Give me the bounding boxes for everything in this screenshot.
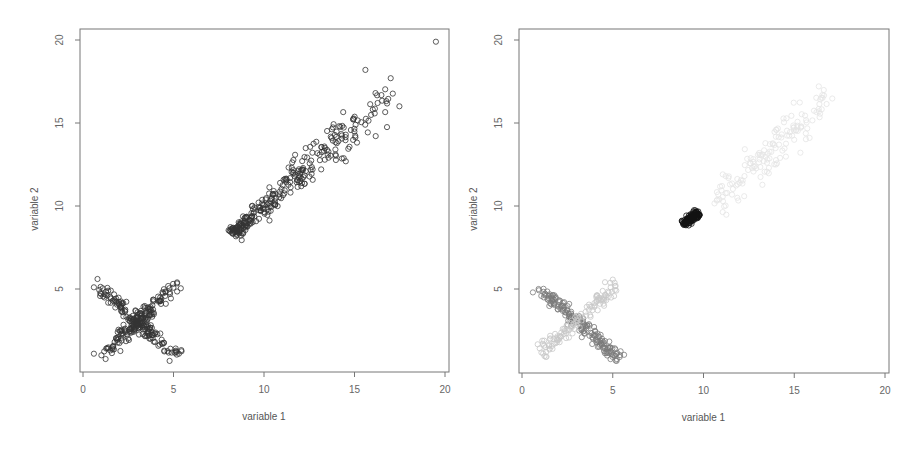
data-point xyxy=(267,185,272,190)
data-point xyxy=(797,100,802,105)
data-point xyxy=(282,188,287,193)
data-point xyxy=(288,190,293,195)
right-scatter-plot: 05101520variable 15101520variable 2 xyxy=(440,0,923,451)
plot-area: 05101520variable 15101520variable 2 xyxy=(29,29,451,422)
data-point xyxy=(354,140,359,145)
y-axis: 5101520variable 2 xyxy=(468,34,519,292)
data-point xyxy=(792,137,797,142)
data-point xyxy=(729,192,734,197)
y-tick-label: 10 xyxy=(493,200,504,212)
data-points xyxy=(91,39,438,363)
data-point xyxy=(817,115,822,120)
data-point xyxy=(810,118,815,123)
data-point xyxy=(798,150,803,155)
data-point xyxy=(91,351,96,356)
data-point xyxy=(319,167,324,172)
y-tick-label: 20 xyxy=(54,34,65,46)
x-tick-label: 10 xyxy=(698,385,710,396)
x-tick-label: 15 xyxy=(789,385,801,396)
data-point xyxy=(595,308,600,313)
data-point xyxy=(99,353,104,358)
x-axis-title: variable 1 xyxy=(242,411,286,422)
series-2 xyxy=(226,87,402,243)
data-point xyxy=(600,288,605,293)
data-point xyxy=(742,194,747,199)
y-tick-label: 5 xyxy=(493,286,504,292)
data-point xyxy=(803,131,808,136)
data-point xyxy=(317,158,322,163)
data-point xyxy=(784,128,789,133)
data-point xyxy=(742,147,747,152)
x-tick-label: 5 xyxy=(610,385,616,396)
y-axis: 5101520variable 2 xyxy=(29,34,80,292)
data-point xyxy=(758,174,763,179)
x-tick-label: 10 xyxy=(258,384,270,395)
x-axis: 05101520variable 1 xyxy=(80,372,451,422)
data-point xyxy=(375,100,380,105)
data-point xyxy=(742,163,747,168)
data-point xyxy=(541,286,546,291)
data-point xyxy=(816,84,821,89)
data-point xyxy=(300,159,305,164)
data-point xyxy=(341,110,346,115)
right-scatter-panel: 05101520variable 15101520variable 2 xyxy=(440,0,901,451)
y-tick-label: 20 xyxy=(493,34,504,46)
x-tick-label: 0 xyxy=(519,385,525,396)
data-point xyxy=(333,147,338,152)
left-scatter-panel: 05101520variable 15101520variable 2 xyxy=(0,0,461,451)
data-point xyxy=(383,110,388,115)
x-tick-label: 5 xyxy=(171,384,177,395)
data-point xyxy=(288,176,293,181)
data-point xyxy=(789,113,794,118)
series-0 xyxy=(679,208,702,229)
data-point xyxy=(325,128,330,133)
data-point xyxy=(579,335,584,340)
data-point xyxy=(817,102,822,107)
data-point xyxy=(397,104,402,109)
data-point xyxy=(760,182,765,187)
data-point xyxy=(830,96,835,101)
data-point xyxy=(365,130,370,135)
data-point xyxy=(368,102,373,107)
data-point xyxy=(764,160,769,165)
y-tick-label: 10 xyxy=(54,200,65,212)
y-tick-label: 5 xyxy=(54,286,65,292)
data-point xyxy=(742,174,747,179)
data-point xyxy=(373,134,378,139)
data-point xyxy=(781,120,786,125)
data-point xyxy=(267,218,272,223)
data-point xyxy=(158,331,163,336)
data-point xyxy=(103,356,108,361)
data-point xyxy=(167,358,172,363)
y-tick-label: 15 xyxy=(493,117,504,129)
data-point xyxy=(783,154,788,159)
data-point xyxy=(171,285,176,290)
data-point xyxy=(720,210,725,215)
data-point xyxy=(330,125,335,130)
y-axis-title: variable 2 xyxy=(468,187,479,231)
data-point xyxy=(799,112,804,117)
data-point xyxy=(390,91,395,96)
data-point xyxy=(388,76,393,81)
series-3 xyxy=(712,84,835,217)
plot-area: 05101520variable 15101520variable 2 xyxy=(468,29,891,423)
data-point xyxy=(805,126,810,131)
data-point xyxy=(310,150,315,155)
data-point xyxy=(293,152,298,157)
data-point xyxy=(383,87,388,92)
data-point xyxy=(821,87,826,92)
left-scatter-plot: 05101520variable 15101520variable 2 xyxy=(0,0,461,451)
data-point xyxy=(433,39,438,44)
data-point xyxy=(384,125,389,130)
y-axis-title: variable 2 xyxy=(29,187,40,231)
x-tick-label: 15 xyxy=(349,384,361,395)
y-tick-label: 15 xyxy=(54,117,65,129)
data-point xyxy=(745,156,750,161)
data-point xyxy=(310,177,315,182)
x-tick-label: 0 xyxy=(80,384,86,395)
data-point xyxy=(363,67,368,72)
data-point xyxy=(602,280,607,285)
data-point xyxy=(824,101,829,106)
data-point xyxy=(118,348,123,353)
x-axis-title: variable 1 xyxy=(682,412,726,423)
